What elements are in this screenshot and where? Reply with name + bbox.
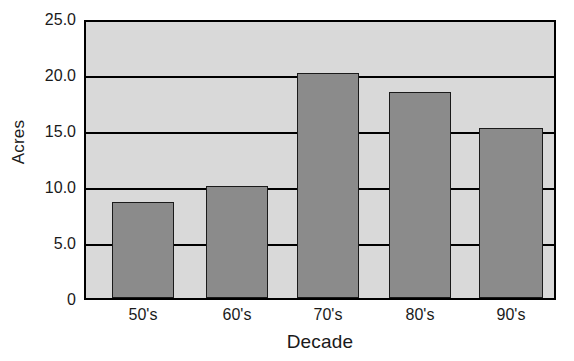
y-axis-tick-labels: 25.0 20.0 15.0 10.0 5.0 0	[14, 0, 76, 361]
y-tick-label: 25.0	[14, 12, 76, 28]
y-tick-label: 0	[14, 292, 76, 308]
x-tick-label: 60's	[223, 306, 252, 324]
y-tick-label: 15.0	[14, 124, 76, 140]
bar-80s[interactable]	[389, 92, 451, 298]
x-axis-tick-labels: 50's 60's 70's 80's 90's	[84, 306, 556, 330]
bar-50s[interactable]	[112, 202, 174, 298]
bar-series	[86, 22, 554, 298]
bar-70s[interactable]	[297, 73, 359, 298]
bar-chart-figure: Acres 25.0 20.0 15.0 10.0 5.0 0 50's 60'…	[0, 0, 574, 361]
bar-90s[interactable]	[479, 128, 543, 298]
x-tick-label: 90's	[497, 306, 526, 324]
x-tick-label: 70's	[314, 306, 343, 324]
y-tick-label: 20.0	[14, 68, 76, 84]
plot-area	[84, 20, 556, 300]
x-tick-label: 50's	[129, 306, 158, 324]
bar-60s[interactable]	[206, 186, 268, 298]
y-tick-label: 10.0	[14, 180, 76, 196]
x-axis-title: Decade	[84, 331, 556, 353]
y-tick-label: 5.0	[14, 236, 76, 252]
x-tick-label: 80's	[406, 306, 435, 324]
